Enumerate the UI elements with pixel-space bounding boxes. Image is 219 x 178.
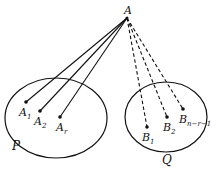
edge-solid xyxy=(40,18,127,111)
vertex-label: B1 xyxy=(141,131,155,146)
vertex-label: Bn−r−1 xyxy=(178,113,211,128)
edge-dashed xyxy=(127,18,183,109)
vertex-dot xyxy=(58,115,62,119)
vertex-label: A1 xyxy=(18,106,31,121)
edge-solid xyxy=(60,18,127,117)
vertex-dot xyxy=(145,125,149,129)
set-q-label: Q xyxy=(162,153,172,167)
vertex-dot xyxy=(181,107,185,111)
diagram-canvas: PQA1A2ArB1B2Bn−r−1A xyxy=(0,0,219,178)
vertex-dot xyxy=(165,115,169,119)
vertex-dot xyxy=(38,109,42,113)
set-p-label: P xyxy=(11,139,21,153)
apex-label: A xyxy=(123,4,132,17)
vertex-label: Ar xyxy=(55,121,68,136)
graph-diagram: PQA1A2ArB1B2Bn−r−1A xyxy=(0,0,219,178)
vertex-label: A2 xyxy=(33,115,47,130)
edge-solid xyxy=(26,18,127,102)
edge-dashed xyxy=(127,18,167,117)
vertex-label: B2 xyxy=(162,121,176,136)
vertex-dot xyxy=(24,100,28,104)
